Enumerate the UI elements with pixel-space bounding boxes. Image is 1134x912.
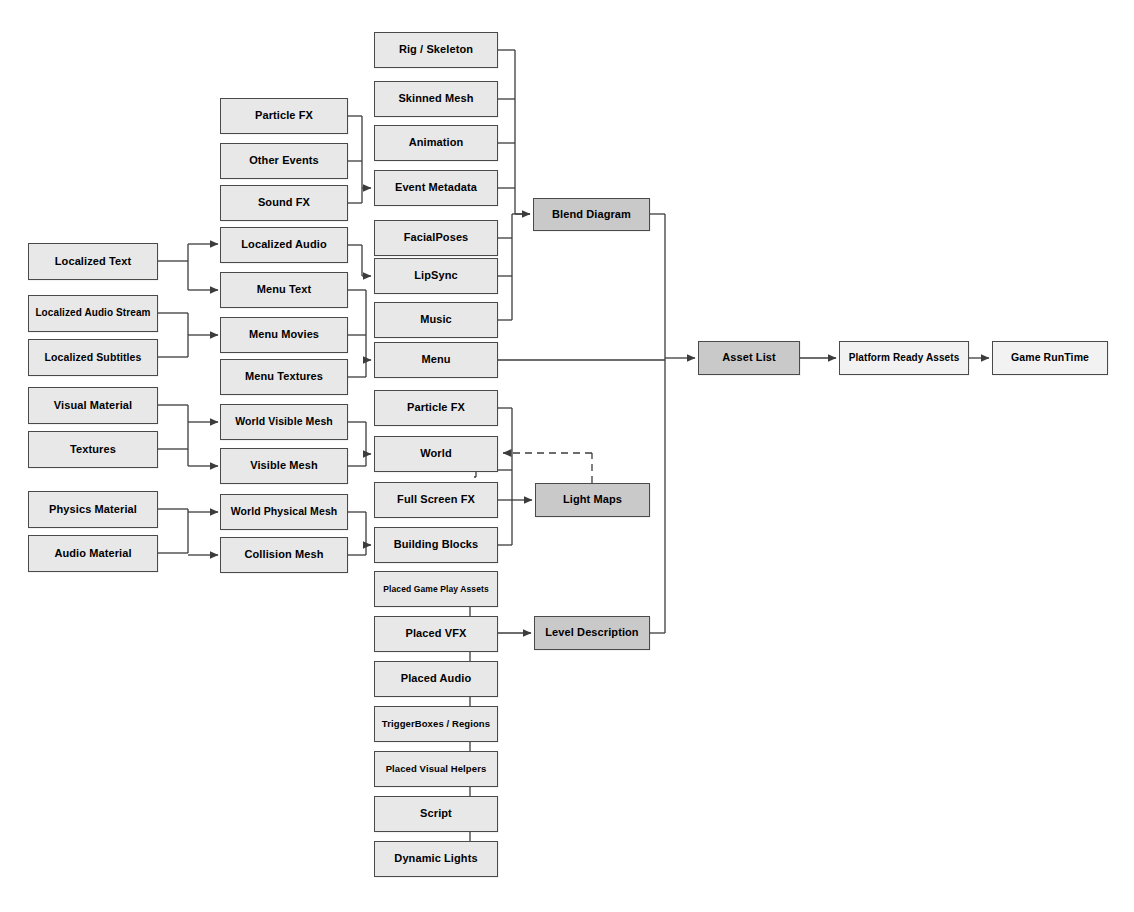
node-label-visual_material: Visual Material <box>51 400 135 412</box>
node-localized_text[interactable]: Localized Text <box>28 243 158 280</box>
node-label-menu_textures: Menu Textures <box>242 371 326 383</box>
node-label-world: World <box>417 448 454 460</box>
node-label-menu_movies: Menu Movies <box>246 329 322 341</box>
node-label-animation: Animation <box>406 137 467 149</box>
node-label-trigger_boxes_regions: TriggerBoxes / Regions <box>379 719 493 729</box>
node-level_description[interactable]: Level Description <box>534 616 650 650</box>
node-world_physical_mesh[interactable]: World Physical Mesh <box>220 494 348 530</box>
node-textures[interactable]: Textures <box>28 431 158 468</box>
node-label-blend_diagram: Blend Diagram <box>549 209 634 221</box>
node-rig_skeleton[interactable]: Rig / Skeleton <box>374 32 498 68</box>
node-label-world_physical_mesh: World Physical Mesh <box>228 506 341 517</box>
node-platform_ready_assets[interactable]: Platform Ready Assets <box>839 341 969 375</box>
node-label-collision_mesh: Collision Mesh <box>241 549 326 561</box>
node-physics_material[interactable]: Physics Material <box>28 491 158 528</box>
node-label-placed_vfx: Placed VFX <box>403 628 470 640</box>
node-label-localized_audio: Localized Audio <box>238 239 329 251</box>
node-sound_fx[interactable]: Sound FX <box>220 185 348 221</box>
node-lipsync[interactable]: LipSync <box>374 258 498 294</box>
flowchart-canvas: Localized TextLocalized Audio StreamLoca… <box>0 0 1134 912</box>
node-trigger_boxes_regions[interactable]: TriggerBoxes / Regions <box>374 706 498 742</box>
node-label-menu: Menu <box>418 354 453 366</box>
node-label-audio_material: Audio Material <box>51 548 134 560</box>
node-label-skinned_mesh: Skinned Mesh <box>395 93 476 105</box>
node-building_blocks[interactable]: Building Blocks <box>374 527 498 563</box>
node-world_visible_mesh[interactable]: World Visible Mesh <box>220 404 348 440</box>
node-menu_textures[interactable]: Menu Textures <box>220 359 348 395</box>
node-label-placed_gameplay_assets: Placed Game Play Assets <box>380 585 491 594</box>
node-other_events[interactable]: Other Events <box>220 143 348 179</box>
node-visible_mesh[interactable]: Visible Mesh <box>220 448 348 484</box>
node-label-game_runtime: Game RunTime <box>1008 352 1092 363</box>
node-game_runtime[interactable]: Game RunTime <box>992 341 1108 375</box>
node-music[interactable]: Music <box>374 302 498 338</box>
node-label-rig_skeleton: Rig / Skeleton <box>396 44 476 56</box>
node-particle_fx_src[interactable]: Particle FX <box>220 98 348 134</box>
node-label-sound_fx: Sound FX <box>255 197 313 209</box>
node-menu_movies[interactable]: Menu Movies <box>220 317 348 353</box>
node-audio_material[interactable]: Audio Material <box>28 535 158 572</box>
node-event_metadata[interactable]: Event Metadata <box>374 170 498 206</box>
node-menu[interactable]: Menu <box>374 342 498 378</box>
node-full_screen_fx[interactable]: Full Screen FX <box>374 482 498 518</box>
node-visual_material[interactable]: Visual Material <box>28 387 158 424</box>
node-label-dynamic_lights: Dynamic Lights <box>391 853 480 865</box>
node-label-menu_text: Menu Text <box>254 284 314 296</box>
node-light_maps[interactable]: Light Maps <box>535 483 650 517</box>
node-menu_text[interactable]: Menu Text <box>220 272 348 308</box>
node-label-level_description: Level Description <box>542 627 641 639</box>
node-placed_audio[interactable]: Placed Audio <box>374 661 498 697</box>
node-label-platform_ready_assets: Platform Ready Assets <box>846 353 963 364</box>
node-label-visible_mesh: Visible Mesh <box>247 460 321 472</box>
node-label-asset_list: Asset List <box>719 352 779 364</box>
node-world[interactable]: World <box>374 436 498 472</box>
node-label-placed_visual_helpers: Placed Visual Helpers <box>383 764 490 774</box>
node-placed_visual_helpers[interactable]: Placed Visual Helpers <box>374 751 498 787</box>
node-dynamic_lights[interactable]: Dynamic Lights <box>374 841 498 877</box>
node-collision_mesh[interactable]: Collision Mesh <box>220 537 348 573</box>
node-label-particle_fx_src: Particle FX <box>252 110 316 122</box>
node-placed_gameplay_assets[interactable]: Placed Game Play Assets <box>374 571 498 607</box>
node-particle_fx_mid[interactable]: Particle FX <box>374 390 498 426</box>
node-label-localized_text: Localized Text <box>52 256 134 268</box>
node-label-localized_subtitles: Localized Subtitles <box>42 352 145 363</box>
node-label-physics_material: Physics Material <box>46 504 140 516</box>
node-script[interactable]: Script <box>374 796 498 832</box>
node-label-localized_audio_stream: Localized Audio Stream <box>32 308 153 319</box>
node-label-other_events: Other Events <box>246 155 322 167</box>
node-animation[interactable]: Animation <box>374 125 498 161</box>
node-label-world_visible_mesh: World Visible Mesh <box>232 416 336 427</box>
node-asset_list[interactable]: Asset List <box>698 341 800 375</box>
node-placed_vfx[interactable]: Placed VFX <box>374 616 498 652</box>
node-label-lipsync: LipSync <box>411 270 461 282</box>
node-label-script: Script <box>417 808 455 820</box>
node-label-facial_poses: FacialPoses <box>401 232 472 244</box>
node-label-full_screen_fx: Full Screen FX <box>394 494 478 506</box>
node-localized_audio_stream[interactable]: Localized Audio Stream <box>28 295 158 332</box>
node-label-particle_fx_mid: Particle FX <box>404 402 468 414</box>
node-blend_diagram[interactable]: Blend Diagram <box>533 198 650 231</box>
node-localized_subtitles[interactable]: Localized Subtitles <box>28 339 158 376</box>
node-skinned_mesh[interactable]: Skinned Mesh <box>374 81 498 117</box>
node-label-music: Music <box>417 314 455 326</box>
node-label-textures: Textures <box>67 444 119 456</box>
node-facial_poses[interactable]: FacialPoses <box>374 220 498 256</box>
node-label-building_blocks: Building Blocks <box>391 539 482 551</box>
node-label-light_maps: Light Maps <box>560 494 625 506</box>
node-label-placed_audio: Placed Audio <box>398 673 474 685</box>
node-layer: Localized TextLocalized Audio StreamLoca… <box>0 0 1134 912</box>
node-label-event_metadata: Event Metadata <box>392 182 480 194</box>
node-localized_audio[interactable]: Localized Audio <box>220 227 348 263</box>
